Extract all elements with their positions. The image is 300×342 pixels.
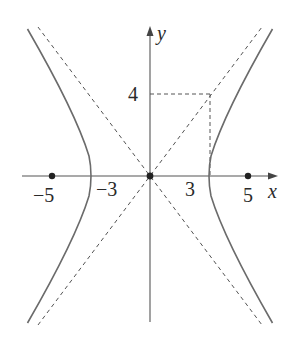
center-point	[147, 173, 154, 180]
x-axis-arrow-icon	[268, 173, 278, 180]
focus-right-point	[245, 173, 251, 179]
y-axis-arrow-icon	[147, 26, 154, 36]
x-tick-label-neg5: −5	[33, 184, 54, 206]
y-tick-label-4: 4	[128, 83, 138, 105]
x-tick-label-neg3: −3	[96, 178, 117, 200]
focus-left-point	[49, 173, 55, 179]
reference-box	[150, 94, 210, 176]
hyperbola-diagram: y x 4 −5 −3 3 5	[0, 0, 300, 342]
y-axis-label: y	[155, 22, 166, 45]
x-axis-label: x	[267, 180, 277, 202]
x-tick-label-5: 5	[243, 184, 253, 206]
x-tick-label-3: 3	[185, 178, 195, 200]
